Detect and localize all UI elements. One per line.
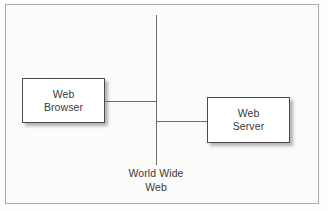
www-caption-line2: Web — [106, 180, 206, 194]
node-web-browser-label-line2: Browser — [44, 101, 83, 114]
node-web-server[interactable]: Web Server — [207, 97, 290, 143]
world-wide-web-caption: World Wide Web — [106, 166, 206, 194]
node-web-browser[interactable]: Web Browser — [22, 78, 105, 123]
diagram-canvas: Web Browser Web Server World Wide Web — [0, 0, 328, 211]
world-wide-web-spine-line — [156, 15, 157, 165]
node-web-server-label-line2: Server — [233, 120, 265, 133]
node-web-browser-label-line1: Web — [53, 88, 75, 101]
node-web-server-label-line1: Web — [238, 107, 260, 120]
browser-to-web-connector-line — [104, 101, 157, 102]
web-to-server-connector-line — [157, 121, 208, 122]
www-caption-line1: World Wide — [106, 166, 206, 180]
